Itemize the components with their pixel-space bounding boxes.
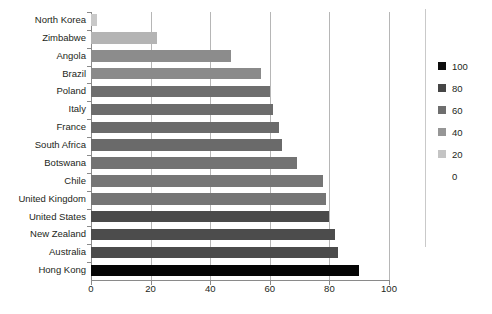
legend-swatch-icon — [438, 150, 446, 158]
legend-label: 100 — [452, 61, 468, 72]
legend-label: 0 — [452, 171, 457, 182]
bar — [91, 122, 279, 134]
bar — [91, 211, 329, 223]
category-label: Italy — [0, 101, 86, 118]
bar-row — [91, 48, 389, 66]
legend-label: 60 — [452, 105, 463, 116]
bar — [91, 247, 338, 259]
category-label: United Kingdom — [0, 191, 86, 208]
bar — [91, 157, 297, 169]
bar-row — [91, 244, 389, 262]
category-label: Poland — [0, 83, 86, 100]
bar — [91, 32, 157, 44]
bar-row — [91, 262, 389, 280]
category-label: United States — [0, 209, 86, 226]
legend-divider — [425, 9, 426, 247]
bar — [91, 50, 231, 62]
legend-label: 80 — [452, 83, 463, 94]
legend-swatch-icon — [438, 62, 446, 70]
bar — [91, 86, 270, 98]
x-tick-label: 100 — [381, 283, 397, 294]
bar-row — [91, 66, 389, 84]
category-label: North Korea — [0, 12, 86, 29]
bar-series — [91, 12, 389, 280]
bar-row — [91, 226, 389, 244]
category-label: Brazil — [0, 66, 86, 83]
category-label: France — [0, 119, 86, 136]
bar-row — [91, 101, 389, 119]
category-label: Botswana — [0, 155, 86, 172]
category-label: Angola — [0, 48, 86, 65]
bar — [91, 104, 273, 116]
category-label: Chile — [0, 173, 86, 190]
legend-item: 0 — [438, 165, 457, 187]
bar-row — [91, 137, 389, 155]
legend-item: 60 — [438, 99, 463, 121]
category-label: Zimbabwe — [0, 30, 86, 47]
bar — [91, 14, 97, 26]
legend-item: 80 — [438, 77, 463, 99]
category-label: New Zealand — [0, 226, 86, 243]
x-axis-tick-labels: 020406080100 — [0, 283, 492, 303]
x-tick-label: 20 — [145, 283, 156, 294]
bar-row — [91, 155, 389, 173]
category-label: Australia — [0, 244, 86, 261]
category-label: South Africa — [0, 137, 86, 154]
bar-row — [91, 119, 389, 137]
category-axis-labels: North KoreaZimbabweAngolaBrazilPolandIta… — [0, 12, 86, 280]
bar — [91, 175, 323, 187]
legend-swatch-icon — [438, 84, 446, 92]
legend-label: 40 — [452, 127, 463, 138]
bar-row — [91, 12, 389, 30]
bar-row — [91, 191, 389, 209]
x-tick-label: 80 — [324, 283, 335, 294]
bar — [91, 229, 335, 241]
legend-swatch-icon — [438, 106, 446, 114]
plot-area — [91, 12, 389, 280]
bar-chart: North KoreaZimbabweAngolaBrazilPolandIta… — [0, 0, 492, 314]
bar — [91, 193, 326, 205]
category-label: Hong Kong — [0, 262, 86, 279]
legend: 100806040200 — [425, 55, 492, 195]
bar — [91, 139, 282, 151]
bar — [91, 68, 261, 80]
bar-row — [91, 30, 389, 48]
gridline — [389, 12, 390, 280]
x-tick-label: 60 — [265, 283, 276, 294]
legend-item: 100 — [438, 55, 468, 77]
legend-swatch-icon — [438, 128, 446, 136]
legend-swatch-icon — [438, 172, 446, 180]
x-tick-label: 40 — [205, 283, 216, 294]
legend-label: 20 — [452, 149, 463, 160]
bar-row — [91, 83, 389, 101]
legend-item: 20 — [438, 143, 463, 165]
x-axis-line — [91, 280, 390, 281]
x-tick-label: 0 — [88, 283, 93, 294]
bar — [91, 265, 359, 277]
legend-item: 40 — [438, 121, 463, 143]
bar-row — [91, 173, 389, 191]
bar-row — [91, 209, 389, 227]
